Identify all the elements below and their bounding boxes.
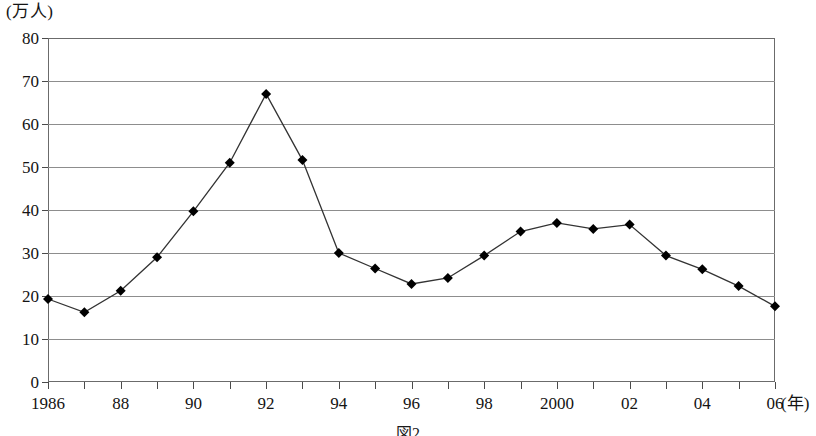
data-point-marker (334, 248, 344, 258)
x-tick-mark (630, 382, 631, 389)
x-tick-mark (739, 382, 740, 389)
data-point-marker (770, 301, 780, 311)
data-point-marker (297, 155, 307, 165)
y-tick-label: 20 (22, 288, 39, 305)
x-tick-mark (121, 382, 122, 389)
x-tick-label: 96 (403, 394, 420, 413)
x-tick-mark (484, 382, 485, 389)
x-tick-mark (412, 382, 413, 389)
y-tick-label: 40 (22, 202, 39, 219)
x-tick-label: 1986 (31, 394, 65, 413)
figure-caption: 図2 (0, 424, 816, 436)
x-tick-mark (230, 382, 231, 389)
y-tick-label: 10 (22, 331, 39, 348)
y-tick-label: 30 (22, 245, 39, 262)
data-point-marker (479, 251, 489, 261)
x-tick-label: 2000 (540, 394, 574, 413)
data-point-marker (734, 281, 744, 291)
x-tick-mark (593, 382, 594, 389)
y-tick-label: 0 (31, 374, 40, 391)
x-tick-mark (666, 382, 667, 389)
x-tick-mark (266, 382, 267, 389)
x-tick-label: 02 (621, 394, 638, 413)
y-axis-unit-label: (万人) (6, 2, 53, 22)
x-tick-mark (557, 382, 558, 389)
x-tick-label: 88 (112, 394, 129, 413)
data-point-marker (225, 158, 235, 168)
x-tick-mark (775, 382, 776, 389)
data-point-marker (370, 263, 380, 273)
x-tick-mark (702, 382, 703, 389)
data-point-marker (407, 279, 417, 289)
x-tick-mark (193, 382, 194, 389)
x-tick-mark (84, 382, 85, 389)
data-point-marker (79, 307, 89, 317)
data-point-marker (588, 224, 598, 234)
x-tick-label: 92 (258, 394, 275, 413)
plot-area: 80706050403020100 1986889092949698200002… (48, 38, 775, 382)
x-tick-label: 90 (185, 394, 202, 413)
x-tick-mark (521, 382, 522, 389)
y-tick-label: 70 (22, 73, 39, 90)
x-tick-label: 94 (330, 394, 347, 413)
x-tick-label: 98 (476, 394, 493, 413)
line-chart: (万人) 80706050403020100 19868890929496982… (0, 0, 816, 436)
y-tick-label: 50 (22, 159, 39, 176)
y-tick-label: 80 (22, 30, 39, 47)
x-tick-mark (339, 382, 340, 389)
x-tick-mark (375, 382, 376, 389)
data-series (48, 38, 775, 382)
x-axis-unit-label: (年) (781, 394, 809, 413)
data-point-marker (552, 218, 562, 228)
x-tick-mark (302, 382, 303, 389)
x-tick-mark (48, 382, 49, 389)
x-tick-mark (448, 382, 449, 389)
data-point-marker (697, 264, 707, 274)
data-point-marker (443, 273, 453, 283)
data-point-marker (261, 89, 271, 99)
x-tick-label: 04 (694, 394, 711, 413)
y-tick-label: 60 (22, 116, 39, 133)
data-point-marker (516, 227, 526, 237)
x-tick-mark (157, 382, 158, 389)
